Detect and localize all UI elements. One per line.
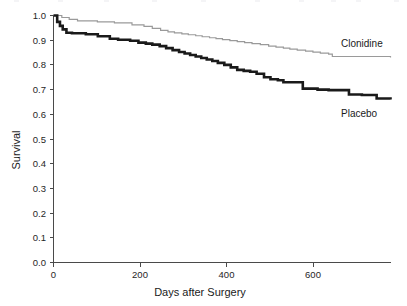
- y-tick-label: 0.5: [33, 134, 46, 145]
- kaplan-meier-plot: 1.0 0.9 0.8 0.7 0.6 0.5 0.4 0.3 0.2 0.1 …: [0, 0, 407, 306]
- y-tick-label: 0.0: [33, 257, 46, 268]
- y-tick-group: 1.0 0.9 0.8 0.7 0.6 0.5 0.4 0.3 0.2 0.1 …: [33, 10, 54, 268]
- x-tick-label: 200: [132, 269, 148, 280]
- y-tick-label: 0.2: [33, 208, 46, 219]
- placebo-series-label: Placebo: [341, 108, 378, 119]
- x-axis-title: Days after Surgery: [154, 286, 246, 298]
- y-tick-label: 0.8: [33, 59, 46, 70]
- x-tick-label: 0: [51, 269, 56, 280]
- y-tick-label: 0.6: [33, 109, 46, 120]
- x-tick-label: 400: [219, 269, 235, 280]
- y-axis-title: Survival: [10, 130, 22, 169]
- axis-group: [54, 16, 391, 263]
- y-tick-label: 0.7: [33, 84, 46, 95]
- y-tick-label: 0.9: [33, 35, 46, 46]
- x-tick-label: 600: [305, 269, 321, 280]
- placebo-survival-curve: [54, 16, 391, 100]
- y-tick-label: 0.4: [33, 158, 46, 169]
- clonidine-series-label: Clonidine: [341, 38, 383, 49]
- y-tick-label: 0.1: [33, 232, 46, 243]
- y-tick-label: 1.0: [33, 10, 46, 21]
- y-tick-label: 0.3: [33, 183, 46, 194]
- survival-chart-figure: 1.0 0.9 0.8 0.7 0.6 0.5 0.4 0.3 0.2 0.1 …: [0, 0, 407, 306]
- x-tick-group: 0 200 400 600: [51, 263, 321, 281]
